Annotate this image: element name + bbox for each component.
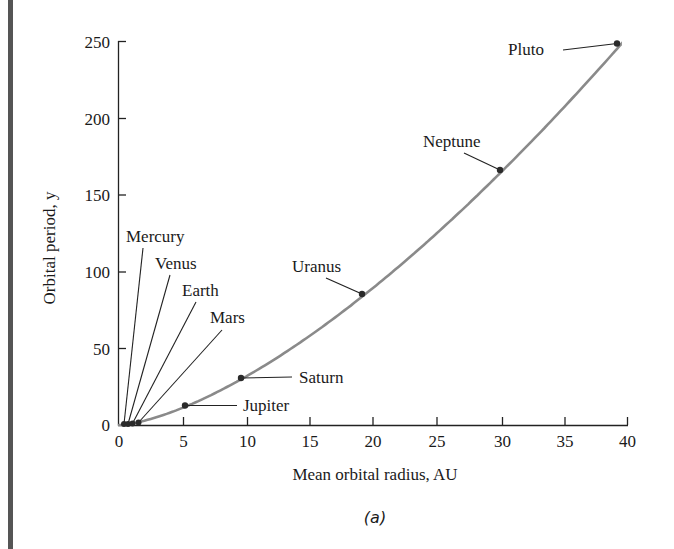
point-pluto (614, 40, 620, 46)
y-tick-250: 250 (85, 33, 111, 52)
y-axis-label: Orbital period, y (40, 191, 59, 304)
x-tick-30: 30 (494, 432, 511, 451)
kepler-curve (119, 45, 621, 425)
kepler-chart: 250 200 150 100 50 0 0 5 10 15 20 25 30 … (0, 0, 674, 549)
point-uranus (359, 291, 365, 297)
label-uranus: Uranus (292, 257, 341, 276)
label-earth: Earth (182, 281, 219, 300)
y-tick-50: 50 (93, 340, 110, 359)
x-tick-35: 35 (557, 432, 574, 451)
x-tick-5: 5 (179, 432, 188, 451)
label-jupiter: Jupiter (243, 396, 290, 415)
y-tick-200: 200 (85, 110, 111, 129)
y-tick-150: 150 (85, 186, 111, 205)
x-tick-20: 20 (365, 432, 382, 451)
y-tick-0: 0 (102, 416, 111, 435)
y-tick-labels: 250 200 150 100 50 0 (85, 33, 111, 435)
point-saturn (238, 375, 244, 381)
x-tick-labels: 0 5 10 15 20 25 30 35 40 (115, 432, 636, 451)
y-tick-100: 100 (85, 263, 111, 282)
label-mercury: Mercury (126, 227, 185, 246)
leader-lines (124, 44, 617, 425)
x-tick-10: 10 (239, 432, 256, 451)
point-neptune (497, 167, 503, 173)
label-saturn: Saturn (299, 368, 344, 387)
planet-points (121, 40, 620, 427)
label-pluto: Pluto (508, 40, 544, 59)
label-mars: Mars (210, 308, 245, 327)
x-tick-40: 40 (619, 432, 636, 451)
planet-labels: Mercury Venus Earth Mars Jupiter Saturn … (126, 40, 544, 415)
x-tick-25: 25 (429, 432, 446, 451)
axes (118, 41, 628, 426)
figure-caption: (a) (364, 508, 386, 527)
x-axis-label: Mean orbital radius, AU (292, 465, 457, 484)
x-tick-0: 0 (115, 432, 124, 451)
x-tick-15: 15 (302, 432, 319, 451)
label-venus: Venus (155, 254, 197, 273)
point-earth (130, 421, 136, 427)
label-neptune: Neptune (423, 132, 481, 151)
point-mars (136, 420, 142, 426)
point-jupiter (182, 402, 188, 408)
